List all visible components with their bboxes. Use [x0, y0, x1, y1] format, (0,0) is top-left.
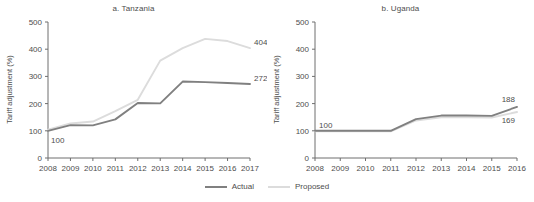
y-axis-tick-label: 500: [296, 18, 310, 27]
x-axis-tick-label: 2011: [107, 164, 125, 173]
data-label-100: 100: [51, 136, 65, 145]
y-axis-tick-label: 200: [296, 100, 310, 109]
data-label-272: 272: [254, 74, 267, 83]
series-line-actual: [315, 107, 517, 131]
x-axis-tick-label: 2014: [174, 164, 192, 173]
chart-panel-uganda: b. Uganda Tariff adjustment (%) 01002003…: [267, 0, 534, 180]
y-axis-tick-label: 100: [296, 127, 310, 136]
data-label-169: 169: [502, 116, 516, 125]
x-axis-tick-label: 2009: [62, 164, 80, 173]
x-axis-tick-label: 2015: [196, 164, 214, 173]
x-axis-tick-label: 2008: [306, 164, 324, 173]
chart-legend: Actual Proposed: [0, 182, 534, 191]
x-axis-tick-label: 2011: [382, 164, 400, 173]
x-axis-tick-label: 2016: [508, 164, 526, 173]
x-axis-tick-label: 2016: [219, 164, 237, 173]
y-axis-tick-label: 200: [29, 100, 43, 109]
x-axis-tick-label: 2010: [84, 164, 102, 173]
x-axis-tick-label: 2014: [458, 164, 476, 173]
data-label-188: 188: [502, 95, 516, 104]
x-axis-tick-label: 2009: [331, 164, 349, 173]
legend-line-icon-actual: [205, 186, 227, 188]
y-axis-tick-label: 300: [29, 72, 43, 81]
x-axis-tick-label: 2013: [151, 164, 169, 173]
data-label-100: 100: [319, 121, 333, 130]
x-axis-tick-label: 2010: [357, 164, 375, 173]
legend-label-proposed: Proposed: [295, 182, 329, 191]
legend-entry-actual: Actual: [205, 182, 254, 191]
plot-area-tanzania: 0100200300400500200820092010201120122013…: [0, 0, 267, 180]
y-axis-tick-label: 400: [296, 45, 310, 54]
x-axis-tick-label: 2008: [39, 164, 57, 173]
plot-area-uganda: 0100200300400500200820092010201120122013…: [267, 0, 534, 180]
legend-entry-proposed: Proposed: [268, 182, 329, 191]
y-axis-tick-label: 100: [29, 127, 43, 136]
x-axis-tick-label: 2012: [407, 164, 425, 173]
series-line-proposed: [48, 39, 250, 130]
x-axis-tick-label: 2012: [129, 164, 147, 173]
legend-line-icon-proposed: [268, 186, 290, 188]
y-axis-tick-label: 0: [38, 154, 43, 163]
figure-two-panel-line-charts: a. Tanzania Tariff adjustment (%) 010020…: [0, 0, 534, 202]
chart-panel-tanzania: a. Tanzania Tariff adjustment (%) 010020…: [0, 0, 267, 180]
legend-label-actual: Actual: [232, 182, 254, 191]
x-axis-tick-label: 2017: [241, 164, 259, 173]
y-axis-tick-label: 400: [29, 45, 43, 54]
y-axis-tick-label: 300: [296, 72, 310, 81]
y-axis-tick-label: 500: [29, 18, 43, 27]
data-label-404: 404: [254, 38, 267, 47]
y-axis-tick-label: 0: [305, 154, 310, 163]
x-axis-tick-label: 2013: [432, 164, 450, 173]
x-axis-tick-label: 2015: [483, 164, 501, 173]
